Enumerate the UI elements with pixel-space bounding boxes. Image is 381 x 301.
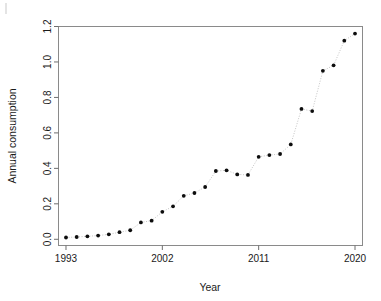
data-point: [289, 143, 293, 147]
data-point: [128, 228, 132, 232]
data-point: [139, 221, 143, 225]
plot-frame: [59, 27, 363, 246]
data-point: [107, 232, 111, 236]
data-point: [203, 185, 207, 189]
x-tick-label: 2020: [344, 253, 367, 264]
y-tick-label: 0.6: [42, 126, 53, 140]
data-point-group: [64, 32, 357, 240]
data-point: [257, 155, 261, 159]
data-point: [182, 194, 186, 198]
data-point: [332, 63, 336, 67]
y-tick-label: 1.0: [42, 55, 53, 69]
y-tick-label: 1.2: [42, 19, 53, 33]
data-point: [235, 172, 239, 176]
y-tick-label: 0.8: [42, 90, 53, 104]
x-axis-ticks: 1993200220112020: [55, 246, 367, 264]
data-point: [64, 236, 68, 240]
data-point: [150, 219, 154, 223]
data-point: [267, 153, 271, 157]
data-point: [300, 107, 304, 111]
data-point: [353, 32, 357, 36]
data-point: [246, 173, 250, 177]
x-axis-title: Year: [199, 281, 221, 293]
y-tick-label: 0.4: [42, 161, 53, 175]
y-tick-label: 0.0: [42, 232, 53, 246]
data-point: [96, 234, 100, 238]
x-tick-label: 1993: [55, 253, 78, 264]
data-point: [75, 235, 79, 239]
y-tick-label: 0.2: [42, 196, 53, 210]
data-point: [310, 109, 314, 113]
data-point: [342, 39, 346, 43]
y-axis-ticks: 0.00.20.40.60.81.01.2: [42, 19, 59, 246]
x-tick-label: 2002: [151, 253, 174, 264]
data-point: [171, 204, 175, 208]
chart-figure: 0.00.20.40.60.81.01.2 1993200220112020 A…: [0, 0, 381, 301]
x-tick-label: 2011: [248, 253, 270, 264]
data-point: [118, 230, 122, 234]
annual-consumption-scatter-plot: 0.00.20.40.60.81.01.2 1993200220112020 A…: [0, 0, 381, 301]
data-point: [86, 234, 90, 238]
y-axis-title: Annual consumption: [6, 88, 18, 183]
data-point: [225, 168, 229, 172]
data-point: [160, 210, 164, 214]
data-point: [193, 191, 197, 195]
data-point: [321, 69, 325, 73]
data-point: [214, 169, 218, 173]
data-connector-line: [66, 34, 355, 238]
data-point: [278, 152, 282, 156]
